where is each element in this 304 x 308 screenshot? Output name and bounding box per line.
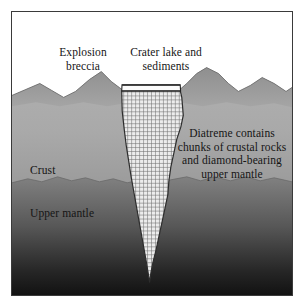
geology-cross-section-illustration (12, 12, 292, 295)
diatreme-figure: Explosion breccia Crater lake and sedime… (0, 0, 304, 308)
figure-frame: Explosion breccia Crater lake and sedime… (11, 11, 293, 296)
